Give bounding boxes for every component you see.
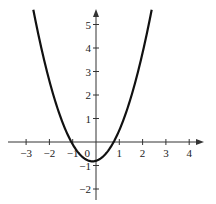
x-tick-label: 4 xyxy=(186,147,192,159)
x-tick-label: −2 xyxy=(44,147,56,159)
y-tick-label: 2 xyxy=(86,89,92,101)
tick-labels: −3−2−11234−2−1123450 xyxy=(20,19,192,196)
x-tick-label: −3 xyxy=(20,147,32,159)
y-tick-label: 5 xyxy=(86,19,92,31)
y-tick-label: 3 xyxy=(86,66,92,78)
y-tick-label: −2 xyxy=(79,183,91,195)
x-tick-label: 2 xyxy=(140,147,146,159)
y-tick-label: 4 xyxy=(86,42,92,54)
ticks xyxy=(26,25,189,190)
y-axis-arrow-icon xyxy=(93,9,99,17)
x-tick-label: 1 xyxy=(117,147,123,159)
parabola-plot: −3−2−11234−2−1123450 xyxy=(0,0,216,204)
parabola-curve xyxy=(33,10,151,162)
x-tick-label: 3 xyxy=(163,147,169,159)
y-tick-label: 1 xyxy=(86,113,92,125)
x-axis-arrow-icon xyxy=(196,139,204,145)
axes xyxy=(8,13,200,200)
origin-label: 0 xyxy=(85,147,91,159)
